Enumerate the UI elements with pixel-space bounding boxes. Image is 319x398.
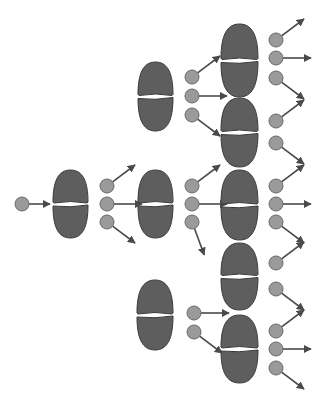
incoming-neutron: [15, 197, 50, 211]
neutron-icon: [185, 89, 199, 103]
velocity-arrow-icon: [282, 147, 304, 164]
chain-reaction-diagram: [0, 0, 319, 398]
neutron-icon: [15, 197, 29, 211]
neutron-icon: [185, 70, 199, 84]
fissioning-nucleus-gen3-4: [221, 243, 258, 310]
nucleus-fragment-bottom: [221, 134, 258, 168]
nucleus-fragment-top: [221, 315, 258, 348]
neutron-icon: [269, 282, 283, 296]
velocity-arrow-icon: [282, 165, 304, 182]
emitted-neutron-gen2-bot-0: [187, 306, 229, 320]
emitted-neutron-gen3-3-0: [269, 165, 304, 193]
velocity-arrow-icon: [113, 226, 135, 243]
emitted-neutron-gen3-1-2: [269, 71, 304, 99]
emitted-neutron-gen2-mid-2: [185, 215, 204, 255]
nucleus-fragment-top: [221, 24, 258, 60]
neutron-icon: [269, 51, 283, 65]
nucleus-fragment-top: [221, 170, 258, 204]
neutron-icon: [269, 256, 283, 270]
emitted-neutron-gen3-2-0: [269, 100, 304, 128]
velocity-arrow-icon: [200, 336, 222, 353]
fissioning-nucleus-gen3-3: [221, 170, 258, 240]
nucleus-fragment-bottom: [221, 350, 258, 383]
emitted-neutron-gen2-mid-0: [185, 165, 220, 193]
neutron-icon: [185, 197, 199, 211]
velocity-arrow-icon: [282, 226, 304, 243]
neutron-icon: [185, 179, 199, 193]
nucleus-fragment-bottom: [53, 205, 88, 238]
emitted-neutron-gen2-top-2: [185, 108, 220, 136]
emitted-neutron-gen2-top-0: [185, 56, 220, 84]
neutron-icon: [100, 215, 114, 229]
nucleus-fragment-bottom: [138, 98, 173, 132]
neutron-icon: [269, 114, 283, 128]
neutron-icon: [185, 108, 199, 122]
neutron-icon: [269, 136, 283, 150]
emitted-neutron-gen3-1-1: [269, 51, 311, 65]
neutron-icon: [269, 215, 283, 229]
nucleus-fragment-top: [138, 62, 173, 96]
nucleus-fragment-bottom: [137, 316, 173, 350]
neutron-icon: [100, 197, 114, 211]
diagram-canvas: [0, 0, 319, 398]
emitted-neutron-gen2-bot-1: [187, 325, 222, 353]
fissioning-nucleus-gen2-bot: [137, 280, 173, 350]
nucleus-fragment-top: [137, 280, 173, 314]
neutron-icon: [100, 179, 114, 193]
velocity-arrow-icon: [282, 310, 304, 327]
neutron-icon: [187, 325, 201, 339]
nucleus-fragment-bottom: [221, 206, 258, 240]
nucleus-fragment-bottom: [221, 278, 258, 311]
velocity-arrow-icon: [198, 56, 220, 73]
emitted-neutron-gen3-1-0: [269, 19, 304, 47]
fissioning-nucleus-gen2-mid: [138, 170, 173, 238]
neutron-icon: [269, 179, 283, 193]
nucleus-fragment-bottom: [221, 62, 258, 98]
nucleus-fragment-top: [221, 98, 258, 132]
neutron-icon: [269, 324, 283, 338]
velocity-arrow-icon: [282, 100, 304, 117]
velocity-arrow-icon: [282, 19, 304, 36]
velocity-arrow-icon: [194, 229, 204, 255]
neutron-icon: [269, 33, 283, 47]
nucleus-fragment-top: [53, 170, 88, 203]
fissioning-nucleus-gen1: [53, 170, 88, 238]
emitted-neutron-gen1-2: [100, 215, 135, 243]
neutron-icon: [269, 361, 283, 375]
neutron-icon: [187, 306, 201, 320]
emitted-neutron-gen3-3-2: [269, 215, 304, 243]
velocity-arrow-icon: [282, 372, 304, 389]
emitted-neutron-gen3-4-1: [269, 282, 304, 310]
emitted-neutron-gen3-2-1: [269, 136, 304, 164]
velocity-arrow-icon: [198, 165, 220, 182]
emitted-neutron-gen1-1: [100, 197, 142, 211]
fissioning-nucleus-gen2-top: [138, 62, 173, 131]
velocity-arrow-icon: [113, 165, 135, 182]
emitted-neutron-gen3-3-1: [269, 197, 311, 211]
nucleus-fragment-top: [221, 243, 258, 276]
fissioning-nucleus-gen3-2: [221, 98, 258, 167]
emitted-neutron-gen3-5-2: [269, 361, 304, 389]
velocity-arrow-icon: [282, 82, 304, 99]
neutron-icon: [185, 215, 199, 229]
emitted-neutron-gen3-5-0: [269, 310, 304, 338]
nucleus-fragment-bottom: [138, 205, 173, 238]
velocity-arrow-icon: [282, 242, 304, 259]
fissioning-nucleus-gen3-5: [221, 315, 258, 383]
emitted-neutron-gen2-top-1: [185, 89, 227, 103]
emitted-neutron-gen3-4-0: [269, 242, 304, 270]
emitted-neutron-gen3-5-1: [269, 342, 311, 356]
fissioning-nucleus-gen3-1: [221, 24, 258, 97]
velocity-arrow-icon: [282, 293, 304, 310]
nucleus-fragment-top: [138, 170, 173, 203]
emitted-neutron-gen1-0: [100, 165, 135, 193]
neutron-icon: [269, 197, 283, 211]
velocity-arrow-icon: [198, 119, 220, 136]
neutron-icon: [269, 342, 283, 356]
neutron-icon: [269, 71, 283, 85]
